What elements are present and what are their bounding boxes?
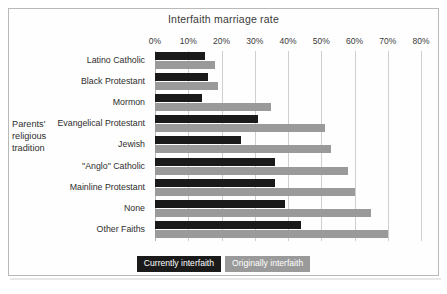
bar-row [155,94,421,115]
category-label-jewish: Jewish [118,139,145,149]
bar-current [155,136,241,144]
bar-current [155,94,202,102]
bar-current [155,52,205,60]
x-tick-label-50: 50% [313,36,330,46]
bar-original [155,124,325,132]
bar-current [155,73,208,81]
bar-current [155,200,285,208]
bar-current [155,115,258,123]
chart-legend: Currently interfaithOriginally interfait… [0,256,447,272]
x-tick-label-60: 60% [346,36,363,46]
category-label-other-faiths: Other Faiths [97,224,145,234]
category-label-mormon: Mormon [113,97,145,107]
bar-current [155,179,275,187]
y-axis-title-line: Parents' [12,118,78,130]
x-tick-label-40: 40% [279,36,296,46]
bar-row [155,115,421,136]
bar-row [155,158,421,179]
x-tick-label-70: 70% [379,36,396,46]
bar-row [155,52,421,73]
chart-shadow [10,278,441,280]
y-axis-title-line: religious [12,130,78,142]
category-label-none: None [124,203,145,213]
bar-original [155,103,271,111]
x-tick-label-0: 0% [149,36,161,46]
y-axis-title: Parents'religioustradition [12,118,78,154]
bar-rows [155,51,421,241]
bar-row [155,200,421,221]
chart-figure: Interfaith marriage rate 0%10%20%30%40%5… [0,0,447,294]
bar-original [155,188,355,196]
bar-current [155,158,275,166]
plot-area [155,51,421,241]
bar-current [155,221,301,229]
x-tick-label-10: 10% [180,36,197,46]
bar-original [155,209,371,217]
bar-original [155,82,218,90]
x-tick-label-80: 80% [412,36,429,46]
bar-row [155,136,421,157]
x-axis-tick-labels: 0%10%20%30%40%50%60%70%80% [0,36,447,48]
y-axis-title-line: tradition [12,142,78,154]
category-label-black-protestant: Black Protestant [81,76,145,86]
bar-row [155,73,421,94]
x-tick-label-20: 20% [213,36,230,46]
category-label-latino-catholic: Latino Catholic [87,55,145,65]
bar-row [155,179,421,200]
x-tick-label-30: 30% [246,36,263,46]
gridline-80 [421,51,422,241]
category-label-anglo-catholic: "Anglo" Catholic [82,161,145,171]
chart-title: Interfaith marriage rate [0,13,447,25]
bar-original [155,167,348,175]
legend-item-originally-interfaith[interactable]: Originally interfaith [225,256,310,272]
category-label-mainline-protestant: Mainline Protestant [70,182,145,192]
bar-row [155,221,421,242]
bar-original [155,145,331,153]
bar-original [155,61,215,69]
legend-item-currently-interfaith[interactable]: Currently interfaith [137,256,221,272]
bar-original [155,230,388,238]
